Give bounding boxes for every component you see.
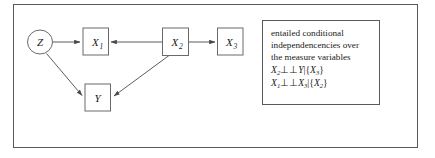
edge-x2-to-y — [114, 56, 169, 97]
annotation-text-block: entailed conditional independencencies o… — [271, 27, 375, 91]
stmt1-left-var: X — [271, 64, 277, 75]
annotation-line-2: independencencies over — [271, 39, 375, 51]
annotation-line-3: the measure variables — [271, 51, 375, 63]
node-x2: X 2 — [163, 28, 189, 56]
independence-statement-2: X1⊥⊥X3|{X2} — [271, 77, 375, 91]
stmt2-cond-close: } — [323, 77, 328, 88]
node-x1: X 1 — [83, 28, 109, 55]
stmt1-cond-subscript: 3 — [316, 69, 319, 76]
stmt2-cond-var: X — [314, 77, 320, 88]
node-x1-subscript: 1 — [100, 42, 104, 51]
stmt2-left-var: X — [271, 77, 277, 88]
node-z-label: Z — [37, 36, 44, 48]
diagram-screenshot: Z X 1 X 2 X 3 Y entailed conditional ind… — [0, 0, 435, 158]
node-x2-subscript: 2 — [179, 42, 183, 51]
stmt2-right-subscript: 3 — [304, 82, 307, 89]
node-z: Z — [28, 30, 53, 54]
annotation-line-1: entailed conditional — [271, 27, 375, 39]
edge-z-to-y — [47, 54, 83, 96]
stmt2-left-subscript: 1 — [277, 82, 280, 89]
node-y: Y — [85, 84, 111, 111]
stmt2-relation: ⊥⊥ — [280, 77, 298, 88]
stmt1-relation: ⊥⊥ — [280, 64, 298, 75]
node-x3-subscript: 3 — [233, 42, 238, 51]
stmt2-cond-subscript: 2 — [320, 82, 323, 89]
independence-statement-1: X2⊥⊥Y|{X3} — [271, 64, 375, 78]
stmt1-cond-close: } — [319, 64, 324, 75]
node-x3: X 3 — [218, 28, 244, 55]
annotation-box: entailed conditional independencencies o… — [262, 20, 380, 105]
stmt1-left-subscript: 2 — [277, 69, 280, 76]
